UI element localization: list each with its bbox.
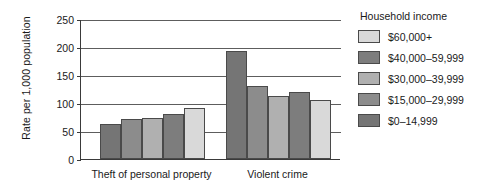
bar xyxy=(184,108,205,159)
bar xyxy=(121,119,142,159)
legend-label: $40,000–59,999 xyxy=(388,52,464,64)
legend-item: $15,000–29,999 xyxy=(358,93,489,106)
plot-area xyxy=(80,20,340,160)
legend-label: $30,000–39,999 xyxy=(388,73,464,85)
legend-swatch xyxy=(358,72,380,85)
bar xyxy=(310,100,331,159)
x-axis-label: Violent crime xyxy=(195,168,360,180)
bar xyxy=(247,86,268,159)
legend-swatch xyxy=(358,51,380,64)
legend-item: $60,000+ xyxy=(358,30,489,43)
bar xyxy=(268,96,289,159)
legend-title: Household income xyxy=(360,10,489,22)
bar-group xyxy=(226,19,331,159)
y-axis-title: Rate per 1,000 population xyxy=(20,8,32,148)
bar xyxy=(289,92,310,159)
legend-swatch xyxy=(358,93,380,106)
y-tick-label: 0 xyxy=(44,155,74,165)
y-tick-mark xyxy=(77,132,81,133)
legend-swatch xyxy=(358,114,380,127)
legend-item: $0–14,999 xyxy=(358,114,489,127)
bar xyxy=(142,118,163,159)
y-tick-label: 100 xyxy=(44,99,74,109)
y-tick-mark xyxy=(77,20,81,21)
legend-label: $15,000–29,999 xyxy=(388,94,464,106)
y-tick-label: 150 xyxy=(44,71,74,81)
legend-entries: $60,000+$40,000–59,999$30,000–39,999$15,… xyxy=(358,30,489,127)
legend-label: $60,000+ xyxy=(388,31,432,43)
legend-item: $30,000–39,999 xyxy=(358,72,489,85)
legend-swatch xyxy=(358,30,380,43)
y-tick-mark xyxy=(77,160,81,161)
bar xyxy=(163,114,184,159)
y-tick-label: 50 xyxy=(44,127,74,137)
legend-item: $40,000–59,999 xyxy=(358,51,489,64)
y-tick-label: 250 xyxy=(44,15,74,25)
legend-label: $0–14,999 xyxy=(388,115,438,127)
y-tick-mark xyxy=(77,48,81,49)
y-tick-label: 200 xyxy=(44,43,74,53)
y-tick-mark xyxy=(77,104,81,105)
bar-group xyxy=(100,19,205,159)
legend: Household income $60,000+$40,000–59,999$… xyxy=(358,10,489,135)
bar xyxy=(226,51,247,159)
bar xyxy=(100,124,121,159)
y-tick-mark xyxy=(77,76,81,77)
chart-root: Rate per 1,000 population Theft of perso… xyxy=(0,0,489,189)
